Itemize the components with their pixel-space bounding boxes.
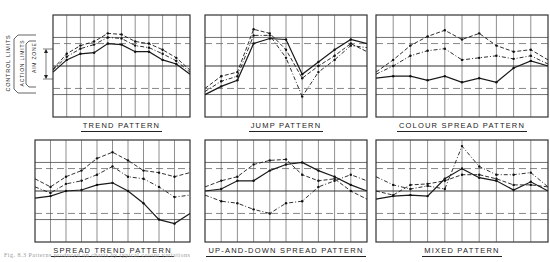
chart-title-up-and-down-spread: UP-AND-DOWN SPREAD PATTERN: [205, 246, 367, 255]
data-point-marker: [350, 38, 352, 40]
data-point-marker: [333, 180, 335, 182]
data-point-marker: [461, 59, 463, 61]
data-point-marker: [148, 42, 150, 44]
data-point-marker: [444, 178, 446, 180]
data-point-marker: [107, 42, 109, 44]
data-point-marker: [252, 42, 254, 44]
data-point-marker: [461, 167, 463, 169]
data-point-marker: [333, 55, 335, 57]
chart-title-jump: JUMP PATTERN: [205, 121, 367, 130]
data-point-marker: [93, 40, 95, 42]
data-point-marker: [134, 51, 136, 53]
chart-plot: [376, 15, 548, 117]
data-point-marker: [269, 37, 271, 39]
data-point-marker: [65, 190, 67, 192]
data-point-marker: [142, 169, 144, 171]
chart-up-and-down-spread-pattern: [205, 140, 367, 242]
data-point-marker: [285, 163, 287, 165]
data-point-marker: [134, 40, 136, 42]
data-point-marker: [409, 184, 411, 186]
data-point-marker: [409, 44, 411, 46]
data-point-marker: [49, 186, 51, 188]
data-point-marker: [512, 67, 514, 69]
data-point-marker: [220, 188, 222, 190]
data-point-marker: [285, 158, 287, 160]
data-point-marker: [120, 37, 122, 39]
data-point-marker: [301, 173, 303, 175]
data-point-marker: [111, 165, 113, 167]
data-point-marker: [236, 79, 238, 81]
data-point-marker: [350, 190, 352, 192]
data-point-marker: [158, 186, 160, 188]
data-point-marker: [269, 32, 271, 34]
data-point-marker: [49, 195, 51, 197]
data-point-marker: [220, 80, 222, 82]
data-point-marker: [478, 77, 480, 79]
data-point-marker: [173, 222, 175, 224]
data-point-marker: [252, 34, 254, 36]
data-point-marker: [107, 32, 109, 34]
data-point-marker: [148, 51, 150, 53]
data-point-marker: [426, 183, 428, 185]
data-point-marker: [478, 173, 480, 175]
data-point-marker: [409, 188, 411, 190]
data-point-marker: [79, 53, 81, 55]
data-point-marker: [220, 200, 222, 202]
data-point-marker: [79, 47, 81, 49]
data-point-marker: [93, 52, 95, 54]
data-point-marker: [392, 184, 394, 186]
data-point-marker: [111, 182, 113, 184]
data-point-marker: [301, 77, 303, 79]
data-point-marker: [269, 34, 271, 36]
data-point-marker: [142, 178, 144, 180]
data-point-marker: [461, 38, 463, 40]
data-point-marker: [269, 169, 271, 171]
data-point-marker: [461, 81, 463, 83]
data-point-marker: [333, 59, 335, 61]
chart-plot: [205, 140, 367, 242]
data-point-marker: [392, 59, 394, 61]
data-point-marker: [65, 176, 67, 178]
data-point-marker: [409, 55, 411, 57]
data-point-marker: [158, 171, 160, 173]
data-point-marker: [317, 169, 319, 171]
data-point-marker: [142, 202, 144, 204]
data-point-marker: [478, 32, 480, 34]
data-point-marker: [512, 184, 514, 186]
data-point-marker: [285, 202, 287, 204]
data-point-marker: [80, 169, 82, 171]
data-point-marker: [444, 188, 446, 190]
data-point-marker: [512, 173, 514, 175]
data-point-marker: [530, 184, 532, 186]
data-point-marker: [495, 178, 497, 180]
data-point-marker: [409, 194, 411, 196]
data-point-marker: [530, 48, 532, 50]
data-point-marker: [66, 53, 68, 55]
data-point-marker: [317, 71, 319, 73]
data-point-marker: [317, 65, 319, 67]
data-point-marker: [252, 163, 254, 165]
data-point-marker: [80, 180, 82, 182]
data-point-marker: [236, 176, 238, 178]
data-point-marker: [495, 55, 497, 57]
data-point-marker: [495, 44, 497, 46]
data-point-marker: [444, 29, 446, 31]
data-point-marker: [426, 35, 428, 37]
data-point-marker: [80, 189, 82, 191]
limits-legend: CONTROL LIMITS ACTION LIMITS AIM ZONE: [0, 14, 56, 114]
data-point-marker: [111, 151, 113, 153]
data-point-marker: [409, 75, 411, 77]
data-point-marker: [252, 28, 254, 30]
data-point-marker: [350, 42, 352, 44]
chart-title-mixed: MIXED PATTERN: [376, 246, 548, 255]
data-point-marker: [96, 157, 98, 159]
chart-trend-pattern: [53, 15, 190, 117]
data-point-marker: [158, 218, 160, 220]
data-point-marker: [512, 189, 514, 191]
data-point-marker: [495, 81, 497, 83]
data-point-marker: [350, 173, 352, 175]
data-point-marker: [66, 59, 68, 61]
data-point-marker: [478, 57, 480, 59]
data-point-marker: [426, 50, 428, 52]
chart-plot: [35, 140, 190, 242]
